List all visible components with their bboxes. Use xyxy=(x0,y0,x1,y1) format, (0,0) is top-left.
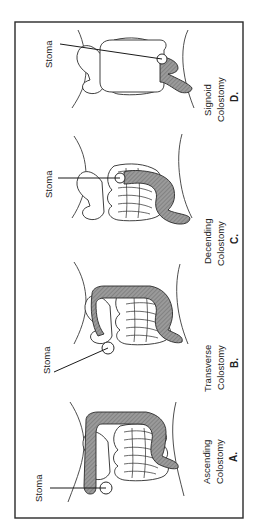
stoma-label: Stoma xyxy=(43,40,54,68)
body-outline xyxy=(183,30,194,108)
panel-title-line2: Colostomy xyxy=(215,77,226,122)
panel-title-line2: Colostomy xyxy=(215,345,226,390)
panel-title-line1: Ascending xyxy=(201,440,212,484)
body-outline xyxy=(68,402,84,502)
body-outline xyxy=(177,264,188,344)
panel-title-line1: Signoid xyxy=(202,84,213,116)
panel-title-line2: Colostomy xyxy=(215,221,226,266)
panel-letter: D. xyxy=(229,92,240,102)
stoma-leader-line xyxy=(54,348,108,372)
panel-c-descending: Stoma Decending Colostomy C. xyxy=(43,134,240,266)
body-outline xyxy=(74,262,86,344)
panel-letter: C. xyxy=(229,234,240,244)
panel-title-line2: Colostomy xyxy=(214,439,225,484)
stoma-label: Stoma xyxy=(33,474,44,502)
body-outline xyxy=(179,134,192,218)
colon xyxy=(100,40,166,92)
panel-letter: A. xyxy=(228,452,239,462)
colostomy-types-figure: Stoma Signoid Colostomy D. Stoma Decendi… xyxy=(0,0,255,531)
panel-b-transverse: Stoma Transverse Colostomy B. xyxy=(41,262,240,392)
body-outline xyxy=(173,402,184,496)
stoma-label: Stoma xyxy=(41,346,52,374)
panel-letter: B. xyxy=(229,358,240,368)
panel-d-sigmoid: Stoma Signoid Colostomy D. xyxy=(43,30,240,122)
panel-a-ascending: Stoma Ascending Colostomy A. xyxy=(33,402,239,502)
panel-title-line1: Decending xyxy=(202,219,213,264)
stoma-label: Stoma xyxy=(43,170,54,198)
panel-title-line1: Transverse xyxy=(202,345,213,392)
